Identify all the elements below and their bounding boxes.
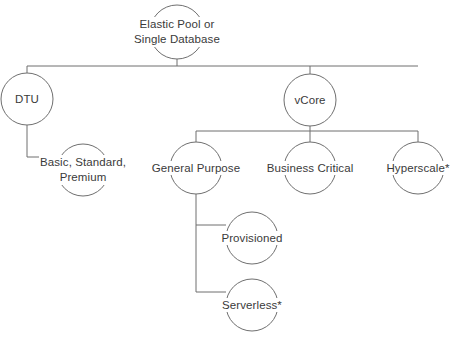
- node-label-hyperscale-line1: Hyperscale*: [386, 161, 449, 175]
- edge-dtu-to-bsp: [27, 125, 57, 157]
- edge-gp-to-provisioned: [196, 194, 226, 225]
- node-label-root-line1: Elastic Pool or: [134, 17, 220, 32]
- node-label-vcore: vCore: [293, 93, 326, 107]
- node-label-root: Elastic Pool or Single Database: [133, 17, 221, 47]
- node-label-provisioned: Provisioned: [220, 231, 283, 245]
- node-label-general-purpose: General Purpose: [151, 161, 241, 175]
- node-label-business-critical: Business Critical: [266, 161, 355, 175]
- node-label-provisioned-line1: Provisioned: [221, 231, 282, 245]
- node-label-general-purpose-line1: General Purpose: [152, 161, 240, 175]
- node-label-root-line2: Single Database: [134, 32, 220, 47]
- node-label-dtu: DTU: [14, 92, 40, 106]
- diagram-canvas: Elastic Pool or Single Database DTU vCor…: [0, 0, 455, 339]
- node-label-business-critical-line1: Business Critical: [267, 161, 354, 175]
- node-label-dtu-line1: DTU: [15, 92, 39, 106]
- node-label-bsp-line2: Premium: [40, 170, 126, 185]
- node-label-serverless-line1: Serverless*: [222, 298, 282, 312]
- node-label-bsp-line1: Basic, Standard,: [40, 155, 126, 170]
- node-label-vcore-line1: vCore: [294, 93, 325, 107]
- node-label-hyperscale: Hyperscale*: [385, 161, 450, 175]
- node-label-serverless: Serverless*: [221, 298, 283, 312]
- node-label-basic-standard-premium: Basic, Standard, Premium: [39, 155, 127, 185]
